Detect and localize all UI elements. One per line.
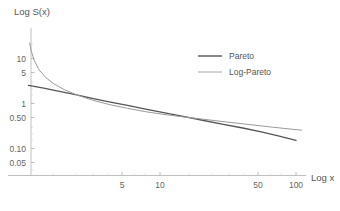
y-tick-label-0-50: 0.50: [9, 113, 26, 123]
y-tick-label-10: 10: [17, 54, 27, 64]
y-tick-label-0-10: 0.10: [9, 144, 26, 154]
x-tick-label-5: 5: [120, 180, 125, 190]
y-tick-label-0-05: 0.05: [9, 158, 26, 168]
chart-legend: Pareto Log-Pareto: [198, 51, 271, 77]
y-tick-label-1: 1: [21, 99, 26, 109]
x-tick-label-10: 10: [155, 180, 165, 190]
x-axis-ticks: [53, 172, 296, 176]
series-line-log-pareto: [30, 43, 302, 130]
chart-figure: 10 5 1 0.50 0.10 0.05 5 10 50 100 Log S(…: [0, 0, 340, 211]
x-axis-title: Log x: [311, 172, 334, 183]
log-log-survival-chart: 10 5 1 0.50 0.10 0.05 5 10 50 100 Log S(…: [0, 0, 340, 211]
legend-label-log-pareto: Log-Pareto: [229, 67, 271, 77]
x-tick-label-50: 50: [253, 180, 263, 190]
y-axis-title: Log S(x): [14, 6, 50, 17]
y-axis-ticks: [31, 44, 35, 170]
series-line-pareto: [29, 85, 296, 140]
y-tick-label-5: 5: [21, 68, 26, 78]
x-tick-label-100: 100: [289, 180, 303, 190]
legend-label-pareto: Pareto: [229, 51, 254, 61]
